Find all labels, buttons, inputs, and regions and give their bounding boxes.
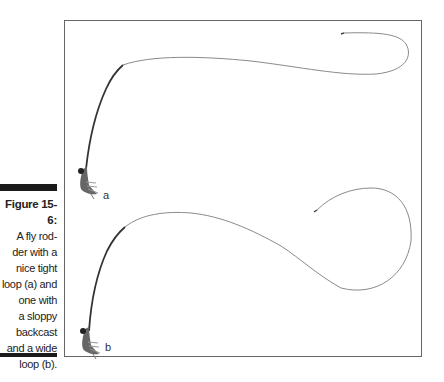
fly-line-a xyxy=(123,33,408,75)
rod-b xyxy=(89,227,125,331)
panel-label-b: b xyxy=(105,341,111,353)
hand-reel-icon-b xyxy=(80,327,100,359)
panel-a-illustration xyxy=(78,33,408,199)
fly-tip-b xyxy=(314,210,317,212)
fly-tip-a xyxy=(341,33,344,34)
fly-casting-illustration xyxy=(1,1,444,382)
hand-reel-icon-a xyxy=(78,167,98,199)
figure-frame: a b xyxy=(64,20,422,357)
panel-b-illustration xyxy=(80,188,411,359)
panel-label-a: a xyxy=(103,189,109,201)
rod-a xyxy=(86,65,123,169)
fly-line-b xyxy=(125,188,411,290)
